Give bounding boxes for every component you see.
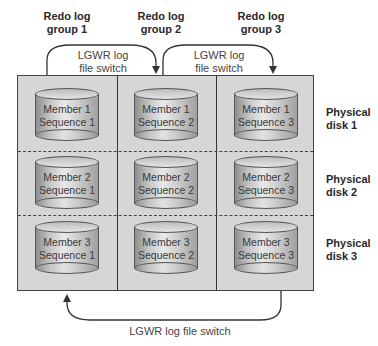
switch-arrow-3-to-1: [67, 291, 281, 320]
sequence-label: Sequence 1: [35, 184, 99, 197]
log-member-cylinder: Member 2Sequence 3: [234, 156, 298, 209]
member-label: Member 1: [35, 103, 99, 116]
disk-label-2: Physical disk 2: [326, 173, 371, 199]
switch-label-line: LGWR log: [174, 49, 264, 62]
disk-divider: [18, 151, 313, 152]
member-label: Member 3: [35, 236, 99, 249]
switch-label-line: file switch: [58, 62, 148, 75]
log-member-cylinder: Member 2Sequence 2: [134, 156, 198, 209]
switch-label-2-to-3: LGWR log file switch: [174, 49, 264, 75]
disk-label-line: disk 2: [326, 186, 371, 199]
switch-label-line: file switch: [174, 62, 264, 75]
member-label: Member 2: [234, 171, 298, 184]
sequence-label: Sequence 2: [134, 184, 198, 197]
sequence-label: Sequence 3: [234, 116, 298, 129]
log-member-cylinder: Member 3Sequence 2: [134, 221, 198, 274]
switch-label-line: LGWR log: [58, 49, 148, 62]
sequence-label: Sequence 3: [234, 184, 298, 197]
log-member-cylinder: Member 3Sequence 3: [234, 221, 298, 274]
disk-label-3: Physical disk 3: [326, 237, 371, 263]
switch-label-3-to-1: LGWR log file switch: [110, 325, 250, 338]
log-member-cylinder: Member 2Sequence 1: [35, 156, 99, 209]
member-label: Member 3: [134, 236, 198, 249]
disk-label-line: disk 3: [326, 250, 371, 263]
disk-label-1: Physical disk 1: [326, 106, 371, 132]
sequence-label: Sequence 1: [35, 116, 99, 129]
disk-divider: [18, 215, 313, 216]
sequence-label: Sequence 2: [134, 249, 198, 262]
member-label: Member 3: [234, 236, 298, 249]
disk-label-line: Physical: [326, 106, 371, 119]
column-divider: [216, 76, 217, 290]
member-label: Member 2: [134, 171, 198, 184]
sequence-label: Sequence 3: [234, 249, 298, 262]
column-divider: [117, 76, 118, 290]
log-member-cylinder: Member 1Sequence 1: [35, 88, 99, 141]
member-label: Member 2: [35, 171, 99, 184]
disk-label-line: Physical: [326, 173, 371, 186]
sequence-label: Sequence 2: [134, 116, 198, 129]
sequence-label: Sequence 1: [35, 249, 99, 262]
disk-label-line: Physical: [326, 237, 371, 250]
switch-label-1-to-2: LGWR log file switch: [58, 49, 148, 75]
redo-log-grid: Member 1Sequence 1 Member 1Sequence 2 Me…: [17, 75, 314, 291]
disk-label-line: disk 1: [326, 119, 371, 132]
member-label: Member 1: [234, 103, 298, 116]
log-member-cylinder: Member 3Sequence 1: [35, 221, 99, 274]
log-member-cylinder: Member 1Sequence 3: [234, 88, 298, 141]
member-label: Member 1: [134, 103, 198, 116]
log-member-cylinder: Member 1Sequence 2: [134, 88, 198, 141]
